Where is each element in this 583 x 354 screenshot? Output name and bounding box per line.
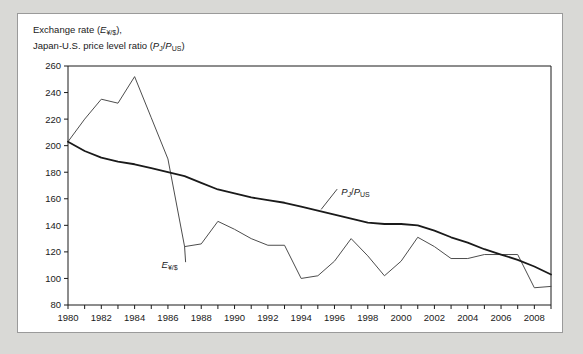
- y-tick-label: 140: [45, 220, 61, 231]
- x-tick-label: 2002: [424, 312, 445, 323]
- x-tick-label: 2006: [490, 312, 511, 323]
- y-tick-label: 160: [45, 193, 61, 204]
- y-tick-label: 240: [45, 87, 61, 98]
- x-tick-label: 1982: [91, 312, 112, 323]
- x-tick-label: 1980: [57, 312, 78, 323]
- exchange-rate-series-label: E¥/$: [162, 259, 178, 271]
- series-lines: [68, 77, 551, 288]
- y-axis-ticks: 80100120140160180200220240260: [45, 60, 68, 310]
- y-tick-label: 80: [50, 299, 61, 310]
- x-tick-label: 1998: [357, 312, 378, 323]
- x-tick-label: 1994: [291, 312, 312, 323]
- x-tick-label: 2000: [391, 312, 412, 323]
- x-axis-ticks: 1980198219841986198819901992199419961998…: [57, 305, 551, 323]
- x-tick-label: 1988: [191, 312, 212, 323]
- line-chart: 80100120140160180200220240260 1980198219…: [18, 14, 564, 334]
- series-line: [68, 77, 551, 288]
- x-tick-label: 1992: [257, 312, 278, 323]
- y-tick-label: 180: [45, 167, 61, 178]
- x-tick-label: 2004: [457, 312, 478, 323]
- x-tick-label: 1984: [124, 312, 145, 323]
- price-ratio-series-label: PJ/PUS: [341, 186, 370, 198]
- x-tick-label: 1990: [224, 312, 245, 323]
- y-tick-label: 100: [45, 273, 61, 284]
- y-tick-label: 200: [45, 140, 61, 151]
- y-tick-label: 260: [45, 60, 61, 71]
- x-tick-label: 1986: [157, 312, 178, 323]
- y-tick-label: 120: [45, 246, 61, 257]
- axis-lines: [68, 66, 551, 305]
- y-tick-label: 220: [45, 114, 61, 125]
- x-tick-label: 2008: [524, 312, 545, 323]
- figure-panel: Exchange rate (E¥/$), Japan-U.S. price l…: [17, 13, 563, 333]
- x-tick-label: 1996: [324, 312, 345, 323]
- series-line: [68, 142, 551, 275]
